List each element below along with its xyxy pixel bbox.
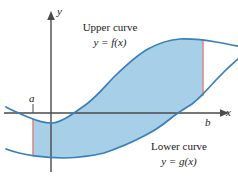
lower-curve-equation: y = g(x)	[144, 155, 214, 168]
lower-bound-label-a: a	[29, 92, 35, 105]
area-between-curves-figure: Upper curve y = f(x) Lower curve y = g(x…	[0, 0, 238, 176]
x-axis-label: x	[226, 106, 231, 119]
y-axis-label: y	[57, 5, 62, 18]
upper-curve-label: Upper curve	[76, 21, 144, 34]
lower-curve-label: Lower curve	[144, 140, 214, 153]
upper-curve-equation: y = f(x)	[76, 36, 144, 49]
upper-bound-label-b: b	[205, 116, 211, 129]
